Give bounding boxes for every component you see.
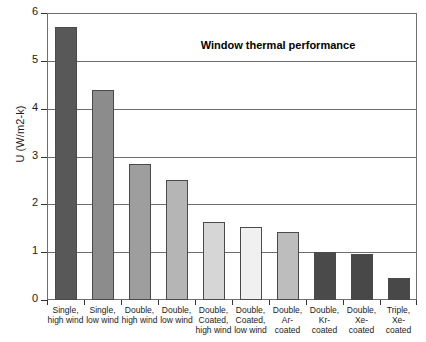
- x-axis-label-line: Xe-: [380, 315, 417, 325]
- x-axis-label-line: coated: [380, 325, 417, 335]
- bar-slot: [269, 13, 306, 300]
- x-axis-label-line: Double,: [121, 305, 158, 315]
- x-axis-label-line: low wind: [158, 315, 195, 325]
- x-axis-labels: Single,high windSingle,low windDouble,hi…: [47, 305, 417, 342]
- x-axis-label-line: Coated,: [232, 315, 269, 325]
- x-axis-label: Single,low wind: [84, 305, 121, 325]
- y-tick-label: 4: [32, 101, 38, 113]
- x-axis-label-line: Double,: [343, 305, 380, 315]
- bar: [277, 232, 299, 300]
- x-axis-label: Double,high wind: [121, 305, 158, 325]
- x-axis-label-line: Xe-: [343, 315, 380, 325]
- bar-series: [47, 13, 417, 300]
- x-axis-label: Double,Coated,low wind: [232, 305, 269, 335]
- y-tick-label: 5: [32, 53, 38, 65]
- x-axis-label-line: coated: [269, 325, 306, 335]
- x-axis-label: Triple,Xe-coated: [380, 305, 417, 335]
- x-axis-label: Double,Kr-coated: [306, 305, 343, 335]
- bar: [92, 90, 114, 300]
- x-axis-label-line: Double,: [306, 305, 343, 315]
- bar: [166, 180, 188, 300]
- x-axis-label-line: low wind: [232, 325, 269, 335]
- bar-slot: [47, 13, 84, 300]
- x-axis-label-line: coated: [306, 325, 343, 335]
- x-axis-label-line: Ar-: [269, 315, 306, 325]
- bar: [129, 164, 151, 300]
- y-tick-label: 6: [32, 5, 38, 17]
- x-axis-label: Single,high wind: [47, 305, 84, 325]
- x-axis-label-line: Single,: [47, 305, 84, 315]
- x-axis-label-line: Double,: [158, 305, 195, 315]
- x-axis-label: Double,Ar-coated: [269, 305, 306, 335]
- x-axis-label-line: high wind: [121, 315, 158, 325]
- bar: [55, 27, 77, 300]
- x-axis-label-line: Triple,: [380, 305, 417, 315]
- bar-slot: [158, 13, 195, 300]
- x-axis-label-line: Single,: [84, 305, 121, 315]
- x-axis-label: Double,Xe-coated: [343, 305, 380, 335]
- x-axis-label-line: Double,: [269, 305, 306, 315]
- bar: [351, 254, 373, 300]
- y-tick-label: 2: [32, 196, 38, 208]
- x-axis-label-line: low wind: [84, 315, 121, 325]
- bar: [388, 278, 410, 300]
- bar-slot: [380, 13, 417, 300]
- bar-slot: [195, 13, 232, 300]
- x-axis-label-line: Double,: [232, 305, 269, 315]
- bar-slot: [121, 13, 158, 300]
- x-axis-label: Double,low wind: [158, 305, 195, 325]
- x-axis-label: Double,Coated,high wind: [195, 305, 232, 335]
- x-axis-label-line: Double,: [195, 305, 232, 315]
- bar: [314, 252, 336, 300]
- x-axis-label-line: high wind: [195, 325, 232, 335]
- bar-slot: [232, 13, 269, 300]
- bar-slot: [343, 13, 380, 300]
- x-axis-label-line: Coated,: [195, 315, 232, 325]
- y-tick-label: 1: [32, 244, 38, 256]
- x-axis-label-line: high wind: [47, 315, 84, 325]
- y-axis-title: U (W/m2-k): [14, 74, 26, 194]
- bar-slot: [84, 13, 121, 300]
- bar-slot: [306, 13, 343, 300]
- y-tick-label: 3: [32, 149, 38, 161]
- x-axis-label-line: coated: [343, 325, 380, 335]
- chart-figure: U (W/m2-k) Window thermal performance 01…: [0, 0, 426, 342]
- y-tick-label: 0: [32, 292, 38, 304]
- bar: [203, 222, 225, 300]
- x-axis-label-line: Kr-: [306, 315, 343, 325]
- bar: [240, 227, 262, 300]
